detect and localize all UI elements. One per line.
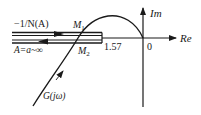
g-direction-arrow [56, 71, 63, 80]
tick-value-label: 1.57 [104, 41, 122, 52]
g-curve-label: G(jω) [43, 91, 66, 102]
nyquist-diagram: Re Im 0 −1/N(A) A=a~∞ 1.57 G(jω) M1 M2 [0, 0, 201, 115]
inverse-df-locus [12, 31, 102, 45]
point-m1-sub: 1 [81, 24, 85, 32]
point-m1-label: M1 [72, 19, 85, 32]
amplitude-range-label: A=a~∞ [13, 45, 43, 55]
point-m2-sub: 2 [86, 50, 90, 58]
inverse-df-label: −1/N(A) [14, 18, 49, 30]
real-axis-label: Re [179, 32, 192, 44]
origin-label: 0 [147, 41, 152, 52]
imag-axis-label: Im [149, 7, 162, 19]
point-m2-label: M2 [77, 45, 90, 58]
